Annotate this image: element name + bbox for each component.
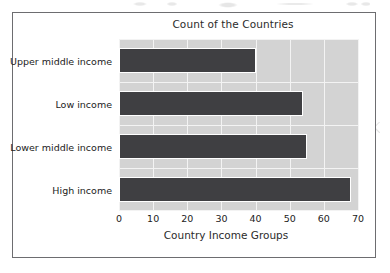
y-axis-label: Low income — [55, 98, 112, 109]
y-axis-category-labels: Upper middle incomeLow incomeLower middl… — [17, 39, 116, 211]
x-axis-tick-label: 70 — [352, 213, 364, 224]
chart-title: Count of the Countries — [13, 18, 375, 30]
x-axis-tick-label: 20 — [181, 213, 193, 224]
x-axis-title: Country Income Groups — [13, 229, 375, 241]
x-axis-tick-label: 10 — [147, 213, 159, 224]
bar — [119, 134, 307, 158]
x-axis-tick-label: 40 — [250, 213, 262, 224]
y-axis-label: Lower middle income — [10, 141, 112, 152]
bar — [119, 177, 351, 201]
bar — [119, 91, 303, 115]
bars-layer — [119, 39, 358, 211]
x-axis-tick-label: 0 — [116, 213, 122, 224]
x-axis-tick-label: 30 — [215, 213, 227, 224]
plot-area — [119, 39, 358, 211]
scan-artifact-top — [120, 1, 370, 8]
x-axis-tick-label: 50 — [284, 213, 296, 224]
gridline-vertical — [358, 39, 359, 211]
bar — [119, 48, 256, 72]
y-axis-label: Upper middle income — [10, 55, 112, 66]
x-axis-tick-label: 60 — [318, 213, 330, 224]
chart-figure: Count of the Countries Upper middle inco… — [12, 12, 376, 258]
y-axis-label: High income — [52, 184, 112, 195]
x-axis-tick-labels: 010203040506070 — [119, 213, 358, 227]
